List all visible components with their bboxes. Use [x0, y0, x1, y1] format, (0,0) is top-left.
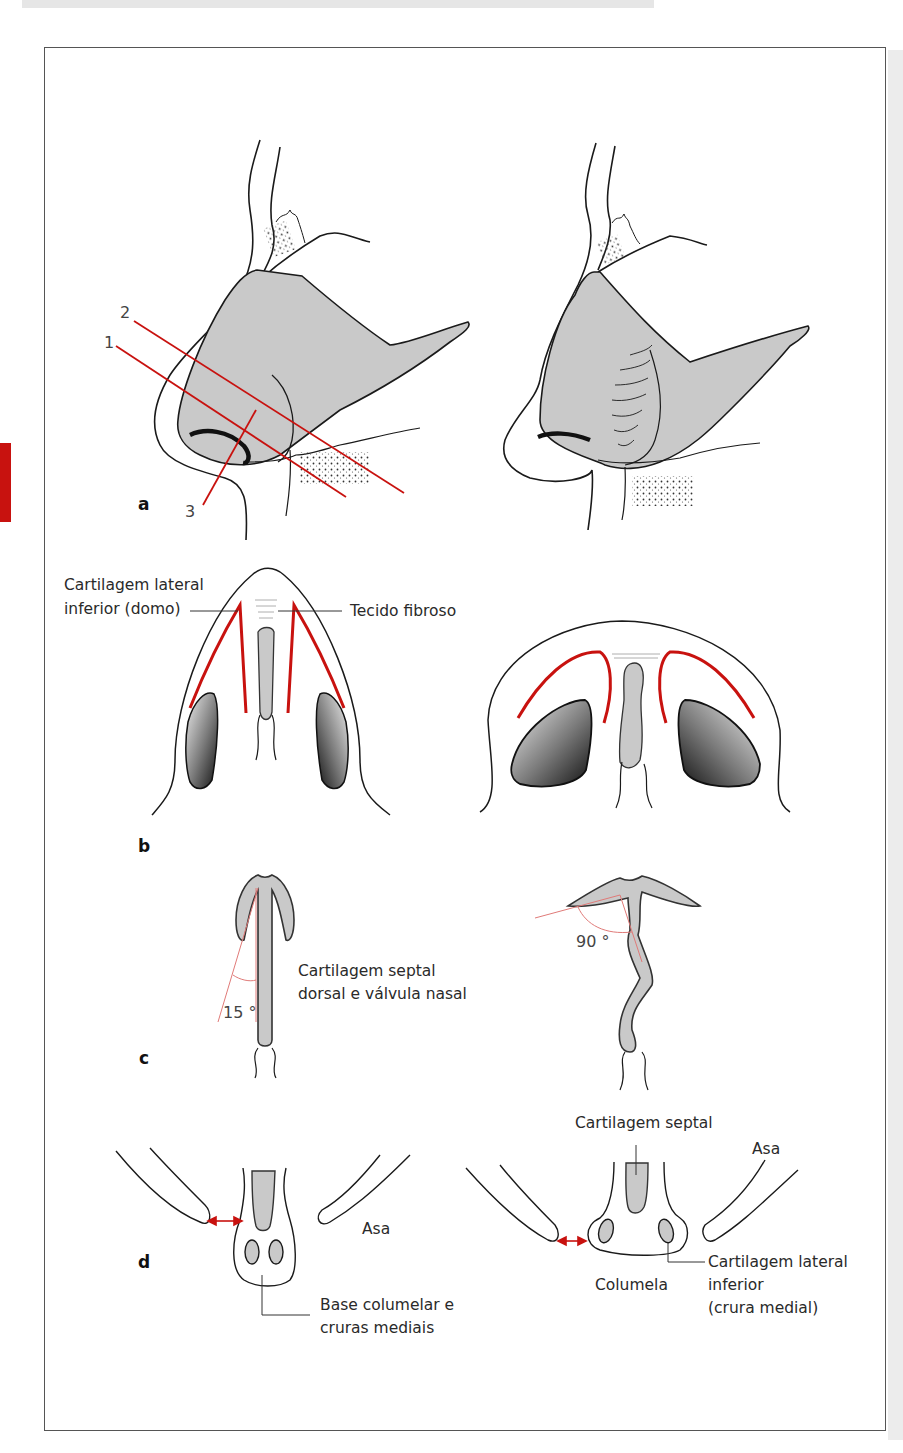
- label-lateral-line1: Cartilagem lateral: [708, 1253, 848, 1271]
- nasal-anatomy-figure: 1 2 3 a Cartilagem lateral inferior (dom…: [0, 0, 903, 1453]
- label-dome-line2: inferior (domo): [64, 600, 181, 618]
- panel-d-right-base: [466, 1145, 798, 1262]
- panel-label-d: d: [138, 1252, 150, 1272]
- label-fibrous-tissue: Tecido fibroso: [349, 602, 456, 620]
- nasal-gap-arrow-left: [208, 1217, 242, 1225]
- panel-b-right-basal: [480, 621, 790, 812]
- label-lateral-line3: (crura medial): [708, 1299, 818, 1317]
- angle-label-15: 15 °: [223, 1003, 256, 1022]
- label-cartilagem-septal: Cartilagem septal: [575, 1114, 713, 1132]
- cut-line-label-1: 1: [104, 333, 114, 352]
- panel-label-c: c: [139, 1048, 149, 1068]
- panel-a-right-profile: [504, 143, 809, 530]
- label-base-columelar-line1: Base columelar e: [320, 1296, 454, 1314]
- cut-line-label-2: 2: [120, 303, 130, 322]
- label-septal-dorsal-line1: Cartilagem septal: [298, 962, 436, 980]
- label-asa-left: Asa: [362, 1220, 390, 1238]
- label-dome-line1: Cartilagem lateral: [64, 576, 204, 594]
- panel-c-right-septum: [535, 876, 700, 1090]
- label-asa-right: Asa: [752, 1140, 780, 1158]
- label-columela: Columela: [595, 1276, 668, 1294]
- label-lateral-line2: inferior: [708, 1276, 764, 1294]
- panel-label-b: b: [138, 836, 150, 856]
- panel-c-left-septum: [218, 875, 294, 1078]
- panel-label-a: a: [138, 494, 149, 514]
- nasal-gap-arrow-right: [558, 1237, 586, 1245]
- label-septal-dorsal-line2: dorsal e válvula nasal: [298, 985, 467, 1003]
- angle-label-90: 90 °: [576, 932, 609, 951]
- panel-a-left-profile: [155, 140, 469, 540]
- label-base-columelar-line2: cruras mediais: [320, 1319, 434, 1337]
- cut-line-label-3: 3: [185, 502, 195, 521]
